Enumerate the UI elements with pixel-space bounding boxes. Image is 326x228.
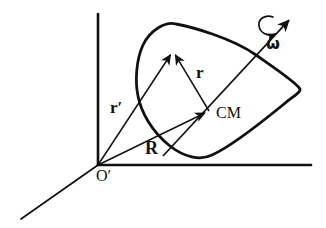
label-omega: ω [266,36,280,52]
label-R: R [145,139,158,157]
r-prime-vector [98,55,171,165]
label-r-prime: r′ [110,99,122,116]
rigid-body-rotation-figure: r′ r R CM ω O′ [0,0,326,228]
label-center-of-mass: CM [216,105,241,121]
depth-axis [21,165,98,219]
omega-spin-arrow [259,16,275,35]
label-r: r [196,64,204,81]
label-origin: O′ [96,168,111,184]
